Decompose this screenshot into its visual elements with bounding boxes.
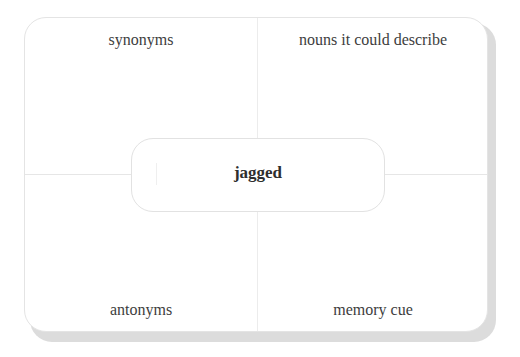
quadrant-antonyms-label: antonyms xyxy=(25,301,257,319)
quadrant-synonyms-label: synonyms xyxy=(25,31,257,49)
frayer-card: synonyms nouns it could describe antonym… xyxy=(24,17,488,332)
quadrant-memory-cue-label: memory cue xyxy=(257,301,489,319)
faint-mark xyxy=(156,163,157,185)
center-word-box: jagged xyxy=(131,138,385,212)
quadrant-nouns-label: nouns it could describe xyxy=(257,31,489,49)
center-word: jagged xyxy=(234,163,282,183)
